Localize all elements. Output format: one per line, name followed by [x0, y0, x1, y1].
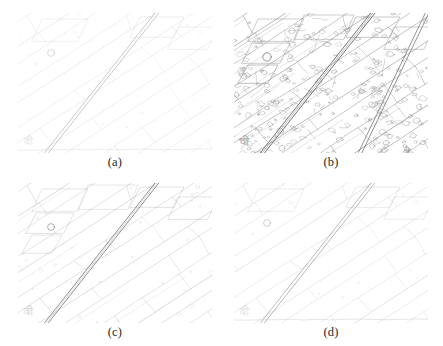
edge-map-svg-c: वी: [18, 183, 212, 323]
edge-map-svg-b: वी: [234, 13, 428, 153]
panel-d: वी: [234, 183, 428, 323]
edge-map-image-b: वी: [234, 13, 428, 153]
panel-caption-b: (b): [234, 156, 428, 169]
svg-text:वी: वी: [24, 305, 33, 318]
edge-map-image-a: वी: [18, 13, 212, 153]
panel-b: वी: [234, 13, 428, 153]
panel-caption-c: (c): [18, 326, 212, 339]
edge-map-svg-d: वी: [234, 183, 428, 323]
panel-c: वी: [18, 183, 212, 323]
figure-panel-grid: वी (a) वी (b) वी (c) वी (d): [0, 0, 443, 346]
panel-a: वी: [18, 13, 212, 153]
svg-text:वी: वी: [240, 135, 249, 148]
edge-map-image-c: वी: [18, 183, 212, 323]
panel-caption-a: (a): [18, 156, 212, 169]
edge-map-svg-a: वी: [18, 13, 212, 153]
svg-text:वी: वी: [240, 305, 249, 318]
panel-caption-d: (d): [234, 326, 428, 339]
svg-text:वी: वी: [24, 135, 33, 148]
edge-map-image-d: वी: [234, 183, 428, 323]
